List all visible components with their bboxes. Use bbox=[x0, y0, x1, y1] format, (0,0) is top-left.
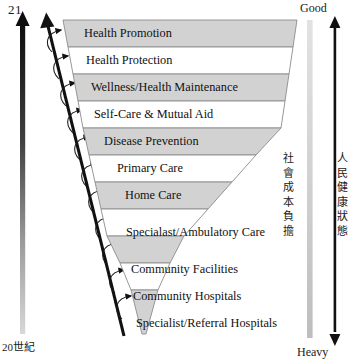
band-label: Wellness/Health Maintenance bbox=[91, 81, 238, 93]
funnel-band bbox=[107, 236, 184, 263]
band-label: Community Facilities bbox=[131, 263, 238, 275]
band-label: Home Care bbox=[125, 189, 181, 201]
diagram-graphics bbox=[0, 0, 359, 362]
social-cost-axis-label: 社會成本負擔 bbox=[281, 152, 295, 239]
band-label: Self-Care & Mutual Aid bbox=[94, 108, 213, 120]
era-label-20th: 20世紀 bbox=[2, 338, 35, 354]
diagram-canvas: Health Promotion Health Protection Welln… bbox=[0, 0, 359, 362]
band-label: Disease Prevention bbox=[104, 135, 199, 147]
band-label: Health Promotion bbox=[84, 27, 172, 39]
public-health-axis-label: 人民健康狀態 bbox=[335, 152, 349, 239]
era-label-21st: 21 bbox=[8, 2, 22, 18]
health-status-bar bbox=[307, 20, 313, 338]
band-label: Community Hospitals bbox=[133, 290, 241, 302]
band-label: Health Protection bbox=[86, 54, 172, 66]
funnel-bands bbox=[63, 20, 297, 334]
health-good-label: Good bbox=[300, 1, 327, 16]
band-label: Specialast/Ambulatory Care bbox=[126, 226, 265, 238]
band-label: Primary Care bbox=[117, 162, 183, 174]
band-label: Specialist/Referral Hospitals bbox=[136, 317, 277, 329]
time-axis-arrow bbox=[16, 11, 30, 334]
cost-heavy-label: Heavy bbox=[297, 345, 328, 360]
cost-down-arrow bbox=[329, 334, 340, 346]
